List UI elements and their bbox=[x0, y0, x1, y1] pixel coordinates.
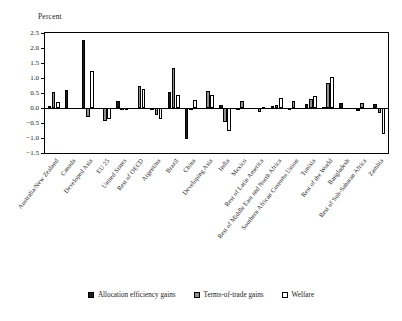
bar-group-bars bbox=[234, 33, 251, 153]
bar-alloc bbox=[150, 108, 154, 110]
bar-group bbox=[199, 33, 216, 153]
bar-alloc bbox=[236, 108, 240, 110]
bar-tot bbox=[309, 99, 313, 108]
bar-group-bars bbox=[45, 33, 62, 153]
bar-wel bbox=[56, 102, 60, 108]
bar-group-bars bbox=[199, 33, 216, 153]
y-tick-label: 2.0 bbox=[30, 44, 39, 52]
bar-wel bbox=[176, 95, 180, 109]
bar-tot bbox=[155, 108, 159, 115]
bar-group-bars bbox=[285, 33, 302, 153]
legend-swatch-icon bbox=[282, 292, 288, 298]
y-tick-label: 1.5 bbox=[30, 59, 39, 67]
legend-item-tot: Terms-of-trade gains bbox=[194, 291, 264, 299]
bar-tot bbox=[52, 92, 56, 109]
bar-group-bars bbox=[182, 33, 199, 153]
bar-tot bbox=[360, 103, 364, 108]
bar-wel bbox=[382, 108, 386, 134]
bar-group-bars bbox=[114, 33, 131, 153]
bar-group bbox=[268, 33, 285, 153]
bar-group bbox=[354, 33, 371, 153]
bar-wel bbox=[210, 95, 214, 108]
bar-group bbox=[234, 33, 251, 153]
bar-wel bbox=[313, 96, 317, 108]
bar-group bbox=[148, 33, 165, 153]
bar-group bbox=[285, 33, 302, 153]
bar-group-bars bbox=[96, 33, 113, 153]
bar-group-bars bbox=[79, 33, 96, 153]
bar-wel bbox=[125, 108, 129, 110]
bar-group-bars bbox=[217, 33, 234, 153]
y-tick-label: 2.5 bbox=[30, 29, 39, 37]
bar-group bbox=[217, 33, 234, 153]
bar-tot bbox=[86, 108, 90, 117]
bar-group-bars bbox=[302, 33, 319, 153]
bar-group-bars bbox=[319, 33, 336, 153]
bar-group bbox=[114, 33, 131, 153]
y-tick-label: 0.0 bbox=[30, 104, 39, 112]
bar-wel bbox=[227, 108, 231, 131]
bar-group-bars bbox=[371, 33, 388, 153]
bar-wel bbox=[279, 98, 283, 108]
bar-alloc bbox=[168, 92, 172, 109]
bar-group bbox=[131, 33, 148, 153]
bar-alloc bbox=[305, 104, 309, 108]
bar-group-bars bbox=[62, 33, 79, 153]
y-tick-label: 0.5 bbox=[30, 89, 39, 97]
legend-label: Allocation efficiency gains bbox=[98, 291, 176, 299]
bar-group bbox=[182, 33, 199, 153]
bar-wel bbox=[107, 108, 111, 119]
bar-alloc bbox=[48, 106, 52, 108]
bar-group-bars bbox=[337, 33, 354, 153]
bar-group bbox=[302, 33, 319, 153]
bar-wel bbox=[159, 108, 163, 119]
bar-tot bbox=[326, 83, 330, 108]
bar-tot bbox=[103, 108, 107, 121]
bar-group-bars bbox=[354, 33, 371, 153]
bar-tot bbox=[138, 86, 142, 108]
bar-group bbox=[319, 33, 336, 153]
bar-alloc bbox=[271, 106, 275, 108]
bar-tot bbox=[378, 108, 382, 113]
bar-group-bars bbox=[131, 33, 148, 153]
bar-tot bbox=[240, 101, 244, 108]
legend-item-alloc: Allocation efficiency gains bbox=[88, 291, 176, 299]
y-axis-title: Percent bbox=[38, 12, 62, 21]
legend-swatch-icon bbox=[88, 292, 94, 298]
y-tick-mark bbox=[41, 153, 45, 154]
bar-wel bbox=[262, 107, 266, 109]
bar-alloc bbox=[322, 107, 326, 109]
bar-alloc bbox=[82, 40, 86, 108]
bar-alloc bbox=[219, 105, 223, 108]
bar-alloc bbox=[373, 104, 377, 108]
bar-alloc bbox=[339, 103, 343, 108]
bar-tot bbox=[206, 91, 210, 108]
bar-alloc bbox=[288, 108, 292, 110]
bar-wel bbox=[193, 100, 197, 108]
legend-swatch-icon bbox=[194, 292, 200, 298]
y-tick-label: −1.0 bbox=[26, 134, 39, 142]
bar-group-bars bbox=[251, 33, 268, 153]
bar-group-bars bbox=[148, 33, 165, 153]
bar-group bbox=[251, 33, 268, 153]
bar-tot bbox=[292, 101, 296, 108]
bar-group bbox=[371, 33, 388, 153]
bar-group-bars bbox=[165, 33, 182, 153]
plot-inner: 2.52.01.51.00.50.0−0.5−1.0−1.5 bbox=[45, 33, 388, 153]
bar-wel bbox=[330, 77, 334, 108]
bar-tot bbox=[172, 68, 176, 109]
chart-legend: Allocation efficiency gainsTerms-of-trad… bbox=[0, 291, 402, 299]
y-tick-label: −0.5 bbox=[26, 119, 39, 127]
plot-area: 2.52.01.51.00.50.0−0.5−1.0−1.5 bbox=[44, 32, 389, 154]
bar-tot bbox=[223, 108, 227, 122]
bar-tot bbox=[275, 105, 279, 108]
bar-group bbox=[165, 33, 182, 153]
bar-tot bbox=[258, 108, 262, 112]
bar-group bbox=[96, 33, 113, 153]
bar-alloc bbox=[116, 101, 120, 108]
bar-group bbox=[79, 33, 96, 153]
legend-label: Terms-of-trade gains bbox=[204, 291, 264, 299]
bar-wel bbox=[90, 71, 94, 108]
bar-alloc bbox=[65, 90, 69, 108]
bar-alloc bbox=[185, 108, 189, 139]
